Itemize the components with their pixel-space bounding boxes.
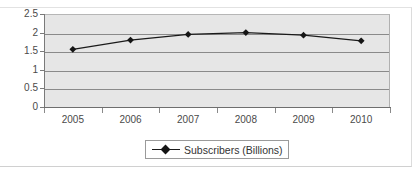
line-chart: 2.521.510.50 200520062007200820092010 Su… (0, 0, 413, 177)
y-axis-tick-label: 0 (2, 102, 38, 112)
legend-swatch (152, 144, 180, 156)
x-axis-tick-label: 2010 (331, 114, 391, 125)
x-axis-tick-mark (332, 108, 333, 113)
x-axis-tick-label: 2006 (101, 114, 161, 125)
x-axis-tick-mark (390, 108, 391, 113)
x-axis-tick-label: 2005 (43, 114, 103, 125)
y-axis-tick-label: 1.5 (2, 46, 38, 56)
chart-legend: Subscribers (Billions) (145, 140, 289, 159)
legend-label: Subscribers (Billions) (184, 144, 283, 156)
data-point-marker (127, 37, 134, 44)
x-axis-tick-mark (159, 108, 160, 113)
y-axis-tick-mark (40, 33, 44, 34)
y-axis-tick-label: 2.5 (2, 9, 38, 19)
data-point-marker (69, 46, 76, 53)
x-axis-tick-label: 2009 (274, 114, 334, 125)
series-markers (69, 29, 364, 53)
x-axis-tick-label: 2008 (216, 114, 276, 125)
diamond-marker-icon (161, 144, 171, 154)
data-point-marker (242, 29, 249, 36)
series-line (73, 33, 361, 50)
y-axis-tick-mark (40, 14, 44, 15)
y-axis-labels: 2.521.510.50 (0, 0, 38, 177)
data-point-marker (358, 37, 365, 44)
x-axis-tick-mark (275, 108, 276, 113)
data-point-marker (185, 31, 192, 38)
x-axis-tick-mark (217, 108, 218, 113)
y-axis-tick-mark (40, 51, 44, 52)
data-point-marker (300, 32, 307, 39)
y-axis-tick-label: 2 (2, 28, 38, 38)
y-axis-tick-mark (40, 88, 44, 89)
y-axis-tick-label: 1 (2, 65, 38, 75)
y-axis-tick-mark (40, 70, 44, 71)
x-axis-tick-mark (102, 108, 103, 113)
x-axis-tick-label: 2007 (158, 114, 218, 125)
data-series-layer (44, 14, 390, 107)
x-axis-tick-mark (44, 108, 45, 113)
y-axis-tick-label: 0.5 (2, 83, 38, 93)
